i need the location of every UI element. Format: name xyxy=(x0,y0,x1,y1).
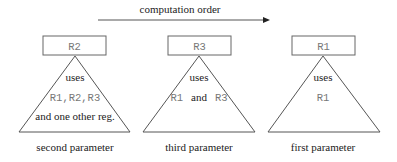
register-a: R1 xyxy=(170,92,183,104)
subtree-first-parameter: R1 uses R1 first parameter xyxy=(268,36,380,153)
caption: second parameter xyxy=(36,141,114,153)
computation-order-arrow: computation order xyxy=(98,3,270,23)
uses-label: uses xyxy=(314,71,333,83)
uses-label: uses xyxy=(190,71,209,83)
register-label: R3 xyxy=(193,41,206,53)
arrow-head-icon xyxy=(263,17,270,23)
register-b: R3 xyxy=(215,92,228,104)
subtree-third-parameter: R3 uses R1 and R3 third parameter xyxy=(143,36,255,153)
caption: third parameter xyxy=(165,141,233,153)
arrow-label: computation order xyxy=(140,3,221,15)
caption: first parameter xyxy=(291,141,356,153)
conjunction: and xyxy=(191,91,207,103)
registers-used: R1,R2,R3 xyxy=(50,92,100,104)
registers-used: R1 xyxy=(317,92,330,104)
register-label: R2 xyxy=(68,41,81,53)
subtree-second-parameter: R2 uses R1,R2,R3 and one other reg. seco… xyxy=(19,36,130,153)
register-label: R1 xyxy=(317,41,330,53)
computation-order-diagram: computation order R2 uses R1,R2,R3 and o… xyxy=(0,0,397,162)
uses-label: uses xyxy=(66,71,85,83)
registers-used-line: R1 and R3 xyxy=(170,87,227,104)
extra-note: and one other reg. xyxy=(35,110,115,122)
